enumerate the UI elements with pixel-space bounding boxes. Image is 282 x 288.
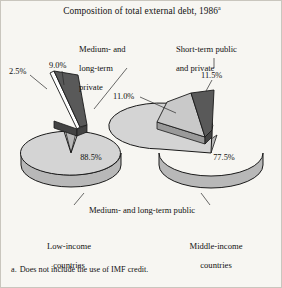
value-label-11-5-percent: 11.5%	[201, 71, 222, 80]
caption-low-income-line1: Low-income	[19, 242, 119, 252]
value-label-88-5-percent: 88.5%	[56, 153, 126, 162]
value-label-11-0-percent: 11.0%	[113, 92, 134, 101]
leader-line-public-right	[201, 193, 210, 205]
footnote-text: Does not include the use of IMF credit.	[20, 265, 149, 274]
leader-line-public-left	[74, 193, 84, 205]
pie-middle-income	[109, 90, 263, 188]
leader-line-2_5	[30, 75, 47, 89]
figure-container: Composition of total external debt, 1986…	[0, 0, 282, 288]
value-label-2-5-percent: 2.5%	[9, 67, 26, 76]
footnote-marker: a.	[11, 265, 17, 274]
value-label-77-5-percent: 77.5%	[189, 153, 259, 162]
label-medium-long-term-public: Medium- and long-term public	[1, 206, 282, 216]
footnote: a.Does not include the use of IMF credit…	[11, 265, 273, 274]
label-st-pubpriv-line1: Short-term public	[176, 45, 237, 55]
label-mlt-private-line2: long-term	[79, 64, 126, 74]
label-mlt-private-line1: Medium- and	[79, 45, 126, 55]
caption-middle-income-line1: Middle-income	[163, 242, 269, 252]
value-label-9-0-percent: 9.0%	[49, 61, 66, 70]
